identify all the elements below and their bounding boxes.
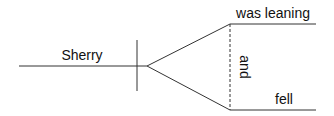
predicate-label-upper: was leaning	[235, 5, 310, 21]
lower-fork-branch	[147, 66, 230, 110]
upper-fork-branch	[147, 24, 230, 66]
conjunction-label: and	[237, 55, 253, 78]
sentence-diagram: Sherry was leaning fell and	[0, 0, 334, 116]
subject-label: Sherry	[61, 47, 102, 63]
predicate-label-lower: fell	[275, 91, 293, 107]
